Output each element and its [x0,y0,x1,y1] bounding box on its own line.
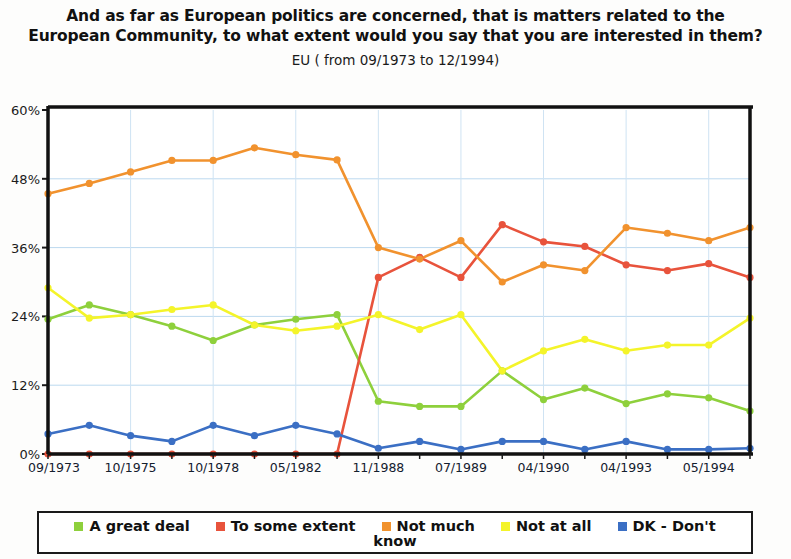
data-point [375,311,382,318]
data-point [127,311,134,318]
legend-item-label: Not at all [516,518,592,534]
data-point [705,260,712,267]
x-axis-tick-label: 04/1993 [600,460,652,475]
data-point [292,327,299,334]
data-point [457,311,464,318]
data-point [457,237,464,244]
legend-row: A great dealTo some extentNot muchNot at… [39,513,751,534]
data-point [581,384,588,391]
y-axis-tick-label: 24% [11,309,40,324]
data-point [540,347,547,354]
legend-swatch-icon [382,522,391,531]
data-point [499,221,506,228]
x-axis-tick-label: 11/1988 [352,460,404,475]
data-point [168,306,175,313]
x-axis-tick-label: 10/1978 [187,460,239,475]
legend-item[interactable]: A great deal [74,518,189,534]
x-axis-tick-label: 09/1973 [28,460,80,475]
data-point [540,238,547,245]
data-point [375,274,382,281]
line-chart-svg: 0%12%24%36%48%60%09/197305/197510/197511… [0,95,791,475]
data-point [540,261,547,268]
data-point [623,347,630,354]
data-point [581,336,588,343]
data-point [705,341,712,348]
legend-swatch-icon [501,522,510,531]
y-axis-tick-label: 36% [11,241,40,256]
legend-item[interactable]: Not much [382,518,475,534]
data-point [416,255,423,262]
legend-item-label: A great deal [89,518,189,534]
data-point [664,390,671,397]
data-point [333,311,340,318]
data-point [457,403,464,410]
data-point [705,237,712,244]
data-point [168,323,175,330]
data-point [210,157,217,164]
legend-item-label: Not much [397,518,475,534]
legend-item[interactable]: DK - Don't [618,518,716,534]
data-point [540,438,547,445]
data-point [499,278,506,285]
chart-legend: A great dealTo some extentNot muchNot at… [37,511,753,554]
data-point [416,403,423,410]
data-point [416,438,423,445]
data-point [168,157,175,164]
data-point [623,438,630,445]
data-point [292,151,299,158]
data-point [416,326,423,333]
data-point [210,301,217,308]
legend-swatch-icon [618,522,627,531]
data-point [375,244,382,251]
data-point [333,156,340,163]
data-point [457,274,464,281]
legend-swatch-icon [216,522,225,531]
legend-wrapped-word: know [39,533,751,549]
data-point [623,400,630,407]
y-axis-tick-label: 48% [11,172,40,187]
data-point [210,337,217,344]
data-point [127,432,134,439]
data-point [168,438,175,445]
data-point [664,446,671,453]
x-axis-tick-label: 07/1989 [435,460,487,475]
data-point [251,321,258,328]
data-point [292,316,299,323]
data-point [251,432,258,439]
data-point [581,267,588,274]
data-point [499,367,506,374]
data-point [86,301,93,308]
data-point [540,396,547,403]
title-block: And as far as European politics are conc… [0,6,791,68]
chart-page: And as far as European politics are conc… [0,0,791,559]
legend-item[interactable]: To some extent [216,518,356,534]
data-point [457,446,464,453]
data-point [664,267,671,274]
data-point [375,398,382,405]
data-point [705,446,712,453]
data-point [86,315,93,322]
data-point [86,422,93,429]
y-axis-tick-label: 60% [11,103,40,118]
legend-swatch-icon [74,522,83,531]
data-point [86,180,93,187]
data-point [292,422,299,429]
legend-item-label: DK - Don't [633,518,716,534]
data-point [333,323,340,330]
data-point [499,438,506,445]
data-point [333,430,340,437]
data-point [375,445,382,452]
data-point [664,230,671,237]
data-point [251,144,258,151]
legend-item[interactable]: Not at all [501,518,592,534]
data-point [581,243,588,250]
data-point [581,446,588,453]
x-axis-tick-label: 10/1975 [105,460,157,475]
y-axis-tick-label: 12% [11,378,40,393]
data-point [623,224,630,231]
data-point [127,168,134,175]
data-point [664,341,671,348]
data-point [623,261,630,268]
plot-area: 0%12%24%36%48%60%09/197305/197510/197511… [0,95,791,475]
x-axis-tick-label: 04/1990 [518,460,570,475]
